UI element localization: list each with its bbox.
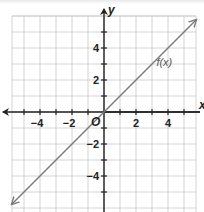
x-tick-label: 4 [165, 117, 172, 129]
y-tick-label: 4 [93, 42, 100, 54]
y-tick-label: −2 [86, 138, 99, 150]
y-axis-label: y [107, 3, 116, 17]
axes [3, 9, 200, 212]
x-tick-label: 2 [133, 117, 139, 129]
y-tick-label: 2 [93, 74, 99, 86]
origin-label: O [91, 115, 101, 129]
coordinate-plane: −4−22442−2−4 x y O f(x) [0, 0, 204, 212]
x-axis-label: x [198, 98, 204, 112]
x-tick-label: −2 [63, 117, 76, 129]
y-tick-label: −4 [86, 170, 99, 182]
x-tick-label: −4 [31, 117, 44, 129]
function-label: f(x) [156, 56, 172, 68]
function-line-upper [104, 20, 196, 112]
